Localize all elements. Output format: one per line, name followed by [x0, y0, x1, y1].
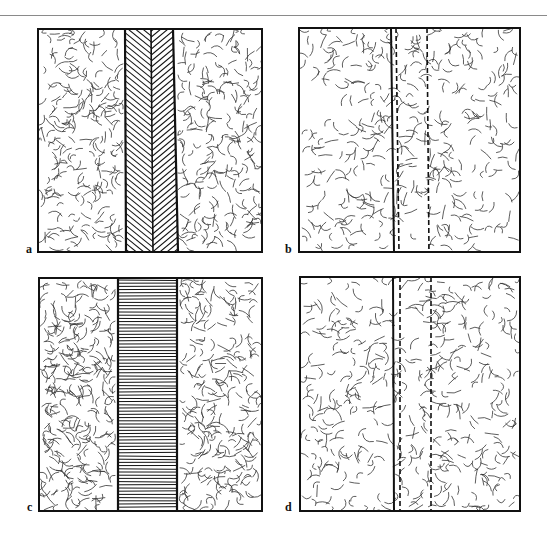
hatch-line	[149, 1, 180, 27]
hatch-line	[118, 456, 177, 457]
panel-label-b: b	[285, 243, 292, 255]
panel-label-a: a	[26, 243, 32, 255]
panel-label-d: d	[285, 501, 292, 513]
panel-background	[299, 28, 520, 252]
hatch-line	[118, 469, 177, 470]
hatch-line	[118, 388, 177, 389]
panel-a	[38, 0, 262, 315]
hatch-line	[118, 391, 177, 392]
hatch-line	[149, 0, 180, 15]
hatch-line	[123, 1, 155, 27]
band-edge-left	[125, 29, 126, 252]
hatch-line	[118, 459, 177, 460]
figure	[0, 0, 547, 533]
hatch-line	[123, 0, 155, 15]
panel-label-c: c	[27, 501, 32, 513]
hatch-line	[149, 253, 180, 279]
hatch-line	[123, 253, 155, 279]
hatch-line	[123, 0, 155, 21]
hatch-line	[149, 0, 180, 21]
panel-d	[300, 277, 520, 511]
hatch-line	[118, 280, 177, 281]
panel-b	[299, 28, 520, 252]
hatch-line	[118, 340, 177, 341]
boundary-solid	[393, 277, 394, 511]
panel-c	[39, 278, 262, 511]
panel-background	[300, 277, 520, 511]
panel-background	[38, 29, 262, 252]
